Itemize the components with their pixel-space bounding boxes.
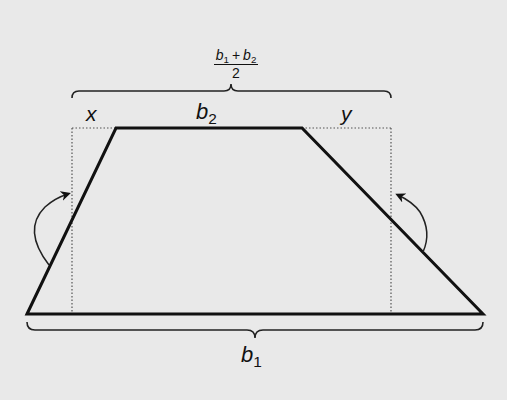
b1-label: b1 [241, 344, 262, 366]
half-sum-of-bases-label: b1+b2 2 [202, 47, 270, 80]
fraction-numerator: b1+b2 [214, 48, 259, 65]
y-label: y [341, 103, 352, 124]
b2-label: b2 [196, 101, 217, 123]
left-rotation-arrow-icon [34, 194, 68, 265]
x-label: x [86, 103, 97, 124]
bottom-brace [27, 322, 483, 338]
fraction-denominator: 2 [202, 66, 270, 80]
dotted-rectangle [72, 128, 391, 314]
top-brace [72, 84, 391, 98]
trapezoid [27, 128, 483, 314]
